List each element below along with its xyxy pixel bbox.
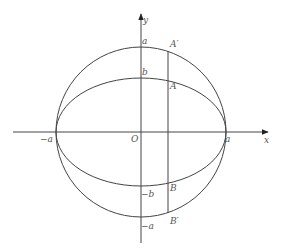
a-right-label: a [225,135,230,144]
diagram-canvas [0,0,282,252]
y-axis-label: y [143,16,148,25]
origin-label: O [131,135,138,144]
x-axis-label: x [264,136,269,145]
neg-b-label: −b [141,190,154,199]
neg-a-bottom-label: −a [141,222,154,231]
point-B-prime-label: B′ [170,217,179,226]
neg-a-left-label: −a [40,135,53,144]
point-A-prime-label: A′ [170,40,179,49]
point-B-label: B [170,184,177,193]
point-A-label: A [170,82,177,91]
b-top-label: b [142,68,148,77]
a-top-label: a [142,37,147,46]
